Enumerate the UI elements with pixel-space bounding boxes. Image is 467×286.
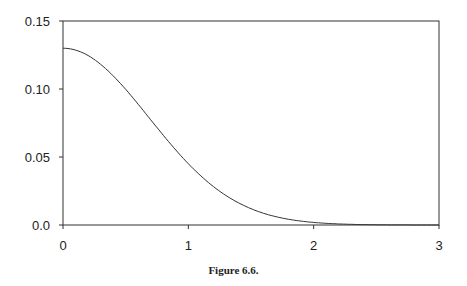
x-tick-label: 3 [435, 238, 442, 253]
y-tick-label: 0.0 [32, 218, 50, 233]
plot-axes: 0.00.050.100.150123 [25, 14, 443, 253]
y-tick-label: 0.05 [25, 150, 50, 165]
y-tick-label: 0.15 [25, 14, 50, 29]
y-tick-label: 0.10 [25, 82, 50, 97]
data-curve [63, 48, 439, 225]
x-tick-label: 0 [59, 238, 66, 253]
plot-frame [63, 21, 439, 225]
x-tick-label: 1 [185, 238, 192, 253]
chart: 0.00.050.100.150123 [0, 0, 467, 286]
x-tick-label: 2 [310, 238, 317, 253]
figure-caption: Figure 6.6. [0, 264, 467, 276]
